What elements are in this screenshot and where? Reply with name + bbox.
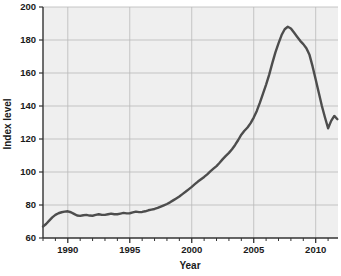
x-tick-label-2010: 2010 <box>305 244 326 255</box>
chart-figure: 6080100120140160180200 19901995200020052… <box>0 0 341 276</box>
x-tick-label-2000: 2000 <box>181 244 202 255</box>
y-tick-label-100: 100 <box>20 166 36 177</box>
y-axis-title: Index level <box>2 98 13 149</box>
y-axis-tick-labels: 6080100120140160180200 <box>20 1 36 243</box>
x-axis-title: Year <box>179 260 200 271</box>
y-tick-label-180: 180 <box>20 34 36 45</box>
index-level-line-chart: 6080100120140160180200 19901995200020052… <box>0 0 341 276</box>
y-tick-label-120: 120 <box>20 133 36 144</box>
y-tick-label-140: 140 <box>20 100 36 111</box>
y-tick-label-80: 80 <box>25 199 36 210</box>
y-tick-label-160: 160 <box>20 67 36 78</box>
x-tick-label-1990: 1990 <box>57 244 78 255</box>
x-axis-tick-labels: 19901995200020052010 <box>57 244 326 255</box>
y-tick-label-60: 60 <box>25 232 36 243</box>
x-tick-label-1995: 1995 <box>119 244 141 255</box>
x-tick-label-2005: 2005 <box>243 244 265 255</box>
y-tick-label-200: 200 <box>20 1 36 12</box>
plot-background <box>43 7 338 238</box>
